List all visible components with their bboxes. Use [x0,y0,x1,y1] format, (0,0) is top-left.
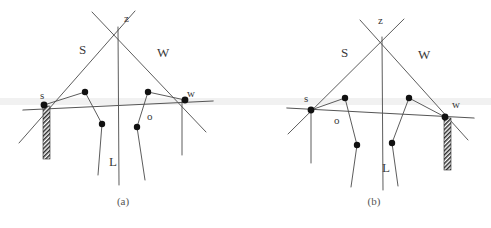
panel-b-hatched-support [444,118,451,170]
panel-a-label-node-w: w [187,87,195,99]
panel-b-label-node-o: o [334,114,340,126]
panel-a-hatched-support [43,106,50,159]
figure-container: z S W s w o L (a) [0,0,491,228]
panel-b-label-node-s: s [304,92,308,104]
panel-b-node-p2 [354,142,360,148]
panel-b-node-p1 [342,95,348,101]
panel-a-seg-p4-end [137,127,145,180]
panel-b-seg-p4-end [392,143,398,186]
panel-b-label-arm-S: S [341,45,348,60]
panel-a-node-p4 [134,124,140,130]
panel-b-node-w [442,114,449,121]
panel-a-label-arm-W: W [157,45,170,60]
panel-b-seg-p1-p2 [345,98,357,145]
panel-b-label-node-w: w [452,98,460,110]
panel-b-node-s [308,107,315,114]
panel-a: z S W s w o L (a) [19,11,213,208]
panel-a-label-node-o: o [147,110,153,122]
panel-b-node-p3 [406,95,412,101]
panel-b-caption: (b) [368,195,381,208]
figure-svg: z S W s w o L (a) [0,0,491,228]
panel-b-node-p4 [389,140,395,146]
panel-a-node-p3 [145,89,151,95]
panel-b-seg-p2-end [351,145,357,187]
horizontal-band [0,98,491,105]
panel-a-caption: (a) [117,195,130,208]
panel-a-label-node-s: s [40,89,44,101]
panel-b-label-apex: z [378,14,383,26]
panel-b: z S W s w o L (b) [287,14,474,208]
panel-b-label-line-L: L [382,160,390,175]
panel-b-arm-W [360,20,468,140]
panel-a-seg-p2-end [98,124,102,175]
panel-a-label-arm-S: S [79,42,86,57]
panel-b-arm-S [288,19,404,134]
panel-a-node-p1 [82,89,88,95]
panel-a-seg-p1-p2 [85,92,102,124]
panel-a-node-p2 [99,121,105,127]
panel-a-label-apex: z [124,12,129,24]
panel-a-label-line-L: L [109,154,117,169]
panel-a-node-s [41,102,48,109]
panel-b-label-arm-W: W [418,47,431,62]
